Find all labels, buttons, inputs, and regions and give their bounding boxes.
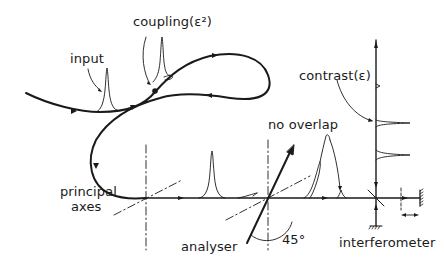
fiber-arrow-5 [93, 163, 99, 169]
label-principal: principal [60, 185, 117, 199]
fiber-path [26, 54, 270, 199]
contrast-leader [337, 80, 372, 121]
label-interferometer: interferometer [339, 236, 435, 250]
label-contrast: contrast(ε) [299, 69, 371, 83]
no-overlap-pulse-1 [304, 162, 320, 198]
label-coupling: coupling(ε²) [133, 15, 212, 29]
diagram-canvas: input coupling(ε²) contrast(ε) no overla… [0, 0, 444, 265]
no-overlap-tall [320, 135, 330, 162]
label-angle: 45° [282, 233, 305, 247]
contrast-large-peak [376, 150, 410, 160]
no-overlap-pulse-2 [337, 190, 346, 198]
input-leader [88, 69, 101, 91]
label-axes: axes [71, 200, 101, 214]
analyser-axis [247, 150, 291, 243]
axis-small-pulse [238, 193, 257, 198]
contrast-mid-peak [376, 120, 410, 127]
coupling-leader [143, 37, 150, 84]
output-arrowhead [374, 41, 378, 48]
coupling-main-pulse [153, 37, 170, 82]
analyser-arrowhead [287, 145, 294, 155]
no-overlap-leader [330, 140, 340, 188]
label-analyser: analyser [181, 240, 237, 254]
axis-main-pulse [199, 151, 225, 198]
label-input: input [70, 52, 104, 66]
diagram-drawing [0, 0, 444, 265]
label-no-overlap: no overlap [268, 118, 338, 132]
coupling-point [152, 88, 158, 94]
